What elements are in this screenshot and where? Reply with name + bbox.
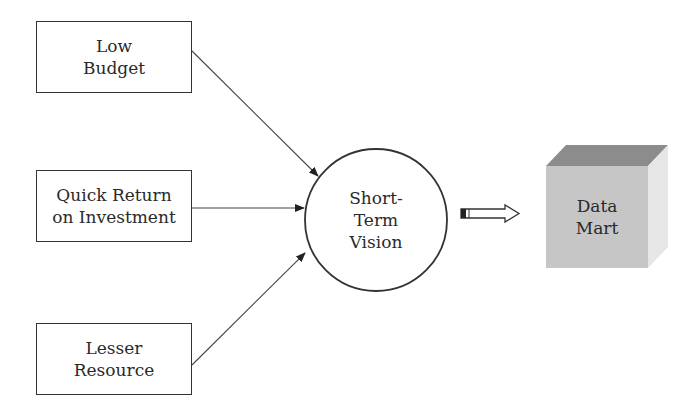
arrow-lesser-resource-to-vision xyxy=(192,253,305,365)
cube-label-line: Mart xyxy=(576,217,619,239)
arrow-low-budget-to-vision xyxy=(192,51,318,176)
input-box-lesser-resource: Lesser Resource xyxy=(36,323,192,395)
box-label-line: Budget xyxy=(83,57,145,79)
box-label-line: Quick Return xyxy=(56,184,171,206)
data-mart-label: Data Mart xyxy=(546,167,648,267)
short-term-vision-label: Short- Term Vision xyxy=(305,150,447,290)
box-label-line: Low xyxy=(96,35,132,57)
circle-label-line: Short- xyxy=(349,187,403,209)
circle-label-line: Vision xyxy=(350,231,403,253)
box-label-line: Lesser xyxy=(86,337,143,359)
input-box-quick-return: Quick Return on Investment xyxy=(36,170,192,242)
cube-label-line: Data xyxy=(577,195,618,217)
box-label-line: Resource xyxy=(74,359,154,381)
input-box-low-budget: Low Budget xyxy=(36,21,192,93)
diagram-canvas: Low Budget Quick Return on Investment Le… xyxy=(0,0,700,420)
box-label-line: on Investment xyxy=(52,206,175,228)
block-arrow-icon xyxy=(461,205,519,222)
circle-label-line: Term xyxy=(354,209,398,231)
